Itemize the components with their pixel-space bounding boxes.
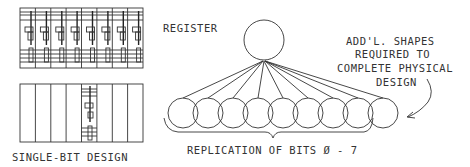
svg-text:ADD'L. SHAPES: ADD'L. SHAPES — [346, 35, 435, 47]
bit-node — [218, 98, 248, 128]
column-dividers — [35, 8, 127, 68]
single-bit-layout-block — [20, 84, 143, 142]
register-node — [244, 20, 284, 60]
single-bit-cell-detail — [82, 86, 97, 140]
bit-node — [243, 98, 273, 128]
replication-label: REPLICATION OF BITS Ø - 7 — [187, 144, 358, 156]
bit-node — [343, 98, 373, 128]
bit-node — [293, 98, 323, 128]
bit-nodes — [168, 98, 398, 128]
svg-text:COMPLETE PHYSICAL: COMPLETE PHYSICAL — [337, 62, 453, 74]
bit-node — [268, 98, 298, 128]
register-replication-diagram: SINGLE-BIT DESIGN REGISTER REPLICATION O… — [0, 0, 470, 167]
svg-text:DESIGN: DESIGN — [376, 76, 417, 88]
note-additional-shapes: ADD'L. SHAPES REQUIRED TO COMPLETE PHYSI… — [337, 35, 453, 88]
bit-node — [168, 98, 198, 128]
bit-node — [318, 98, 348, 128]
register-label: REGISTER — [163, 22, 218, 34]
bit-node — [193, 98, 223, 128]
svg-text:REQUIRED TO: REQUIRED TO — [355, 48, 430, 60]
replicated-layout-block — [20, 8, 143, 68]
single-bit-design-label: SINGLE-BIT DESIGN — [12, 151, 128, 163]
